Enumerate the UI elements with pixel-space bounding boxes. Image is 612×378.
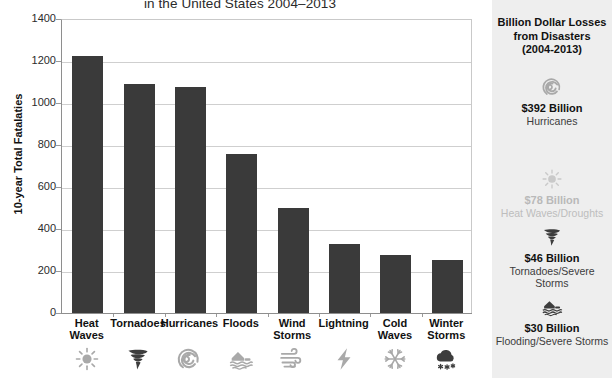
sidebar-entry-category: Hurricanes <box>492 115 612 127</box>
sidebar-title-line-3: (2004-2013) <box>492 43 612 57</box>
sidebar-entry: $30 BillionFlooding/Severe Storms <box>492 296 612 347</box>
sidebar-title-line-2: from Disasters <box>492 30 612 44</box>
sidebar-title-line-1: Billion Dollar Losses <box>492 16 612 30</box>
snow-cloud-icon <box>413 344 479 374</box>
flood-house-icon <box>492 296 612 318</box>
sidebar-title: Billion Dollar Losses from Disasters (20… <box>492 16 612 57</box>
sidebar-entry-amount: $78 Billion <box>492 194 612 206</box>
bar <box>432 260 463 313</box>
sidebar-entry-amount: $30 Billion <box>492 322 612 334</box>
sidebar-entry-amount: $46 Billion <box>492 252 612 264</box>
sidebar-entry-category: Tornadoes/Severe Storms <box>492 265 612 289</box>
bar <box>72 56 103 313</box>
sidebar-entry-category: Heat Waves/Droughts <box>492 207 612 219</box>
sun-icon <box>492 168 612 190</box>
bar <box>175 87 206 313</box>
sidebar-entry: $392 BillionHurricanes <box>492 76 612 127</box>
sidebar-entry-amount: $392 Billion <box>492 102 612 114</box>
y-axis-tick-label: 400 <box>10 222 56 234</box>
sidebar-entry: $78 BillionHeat Waves/Droughts <box>492 168 612 219</box>
hurricane-spiral-icon <box>492 76 612 98</box>
x-axis-category-label: WinterStorms <box>413 318 479 341</box>
bar <box>329 244 360 313</box>
bar <box>380 255 411 313</box>
chart-page: in the United States 2004–2013 10-year T… <box>0 0 612 378</box>
y-axis-ticks: 0200400600800100012001400 <box>0 0 56 378</box>
x-axis-category: WinterStorms <box>413 318 479 374</box>
x-axis-line <box>61 313 472 314</box>
y-axis-tick-label: 1200 <box>10 54 56 66</box>
sidebar-entry: $46 BillionTornadoes/Severe Storms <box>492 226 612 289</box>
tornado-icon <box>492 226 612 248</box>
bar <box>226 154 257 313</box>
y-axis-tick-label: 600 <box>10 180 56 192</box>
sidebar-panel: Billion Dollar Losses from Disasters (20… <box>492 0 612 378</box>
y-axis-tick-label: 800 <box>10 138 56 150</box>
y-axis-tick-label: 1000 <box>10 96 56 108</box>
y-axis-tick-label: 200 <box>10 264 56 276</box>
gridline <box>62 62 471 63</box>
y-axis-tick-label: 1400 <box>10 12 56 24</box>
sidebar-entry-category: Flooding/Severe Storms <box>492 335 612 347</box>
bar <box>124 84 155 313</box>
bar <box>278 208 309 313</box>
plot-area <box>61 19 472 313</box>
chart-title: in the United States 2004–2013 <box>0 0 480 11</box>
y-axis-tick-label: 0 <box>10 306 56 318</box>
